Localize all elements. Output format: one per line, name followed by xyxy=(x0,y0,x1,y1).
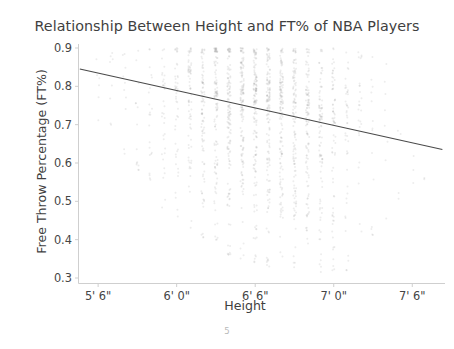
scatter-points xyxy=(95,47,425,273)
plot-area xyxy=(0,0,454,349)
page-number: 5 xyxy=(0,326,454,336)
axis-spines xyxy=(79,44,446,284)
trend-line xyxy=(80,69,443,150)
chart-figure: Relationship Between Height and FT% of N… xyxy=(0,0,454,349)
